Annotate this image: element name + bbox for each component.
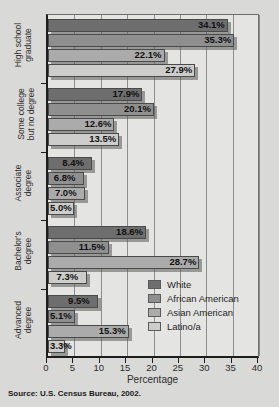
bar-value-label: 12.6%: [84, 117, 111, 131]
legend-swatch: [148, 322, 161, 331]
legend-item[interactable]: Latino/a: [148, 320, 256, 334]
bar-value-label: 9.5%: [68, 294, 90, 308]
bar-group: 34.1%35.3%22.1%27.9%: [48, 15, 258, 84]
clipped-title-text: Educational attainment: [14, 0, 135, 1]
bar-row: 11.5%: [48, 241, 258, 254]
bar-row: 13.5%: [48, 133, 258, 146]
category-label-line: Some college: [16, 88, 26, 140]
category-tick: [41, 220, 46, 221]
category-label: Some collegebut no degree: [0, 83, 46, 152]
bar-value-label: 28.7%: [169, 255, 196, 269]
bar-value-label: 3.3%: [50, 339, 72, 353]
x-tick-label: 40: [245, 362, 269, 373]
legend-item[interactable]: African American: [148, 292, 256, 306]
bar-value-label: 27.9%: [165, 63, 192, 77]
bar-value-label: 22.1%: [135, 48, 162, 62]
legend-swatch: [148, 308, 161, 317]
category-label-line: High school: [13, 23, 23, 67]
category-label-line: degree: [23, 169, 33, 195]
plot-area: 34.1%35.3%22.1%27.9%17.9%20.1%12.6%13.5%…: [46, 14, 259, 358]
category-label-line: graduate: [23, 28, 33, 62]
source-note: Source: U.S. Census Bureau, 2002.: [8, 389, 141, 398]
x-axis-title: Percentage: [46, 374, 259, 385]
bar-value-label: 6.8%: [54, 171, 76, 185]
category-tick: [41, 289, 46, 290]
category-tick: [41, 152, 46, 153]
category-label-line: Associate: [13, 164, 23, 201]
bar-row: 20.1%: [48, 103, 258, 116]
category-label-line: Advanced: [13, 301, 23, 339]
bar-row: 5.0%: [48, 202, 258, 215]
bar-group: 17.9%20.1%12.6%13.5%: [48, 84, 258, 153]
figure: Educational attainment 34.1%35.3%22.1%27…: [0, 0, 279, 407]
category-label-line: degree: [23, 238, 33, 264]
x-tick-label: 35: [219, 362, 243, 373]
bar-value-label: 11.5%: [79, 240, 105, 254]
bar-value-label: 13.5%: [89, 132, 116, 146]
bar-row: 28.7%: [48, 256, 258, 269]
bar-row: 17.9%: [48, 88, 258, 101]
category-label: High schoolgraduate: [0, 14, 46, 83]
legend-item[interactable]: Asian American: [148, 306, 256, 320]
bar-row: 7.0%: [48, 187, 258, 200]
x-tick-label: 0: [34, 362, 58, 373]
legend-swatch: [148, 294, 161, 303]
legend-label: White: [167, 278, 191, 291]
category-label: Associatedegree: [0, 152, 46, 221]
bar-row: 8.4%: [48, 157, 258, 170]
legend-swatch: [148, 280, 161, 289]
bar-row: 27.9%: [48, 64, 258, 77]
bar-row: 35.3%: [48, 34, 258, 47]
clipped-title-strip: Educational attainment: [0, 0, 279, 9]
x-tick-label: 5: [60, 362, 84, 373]
bar-row: 12.6%: [48, 118, 258, 131]
bar-value-label: 5.0%: [50, 201, 72, 215]
bar-row: 18.6%: [48, 226, 258, 239]
bar-value-label: 5.1%: [50, 309, 72, 323]
legend-item[interactable]: White: [148, 278, 256, 292]
bar-value-label: 20.1%: [124, 102, 151, 116]
bar-value-label: 7.0%: [55, 186, 77, 200]
x-tick-label: 20: [140, 362, 164, 373]
legend-label: Asian American: [167, 306, 233, 319]
bar-value-label: 17.9%: [112, 87, 139, 101]
chart-legend: WhiteAfrican AmericanAsian AmericanLatin…: [148, 278, 256, 334]
gridline: [259, 15, 260, 356]
x-tick-label: 25: [166, 362, 190, 373]
legend-label: Latino/a: [167, 320, 201, 333]
bar-row: 22.1%: [48, 49, 258, 62]
category-label: Bachelor'sdegree: [0, 220, 46, 289]
bar-value-label: 34.1%: [198, 18, 225, 32]
legend-label: African American: [167, 292, 239, 305]
bar-value-label: 7.3%: [57, 270, 79, 284]
x-tick-label: 10: [87, 362, 111, 373]
category-tick: [41, 83, 46, 84]
category-label: Advanceddegree: [0, 289, 46, 358]
x-tick-label: 15: [113, 362, 137, 373]
x-tick-label: 30: [192, 362, 216, 373]
bar-group: 8.4%6.8%7.0%5.0%: [48, 153, 258, 222]
bar-value-label: 18.6%: [116, 225, 143, 239]
bar-value-label: 35.3%: [204, 33, 231, 47]
bar-value-label: 15.3%: [99, 324, 126, 338]
category-label-line: degree: [23, 307, 33, 333]
category-label-line: but no degree: [26, 88, 36, 140]
category-label-line: Bachelor's: [13, 232, 23, 271]
bar-row: 6.8%: [48, 172, 258, 185]
bar-value-label: 8.4%: [62, 156, 84, 170]
bar-row: 3.3%: [48, 340, 258, 353]
bar-row: 34.1%: [48, 19, 258, 32]
